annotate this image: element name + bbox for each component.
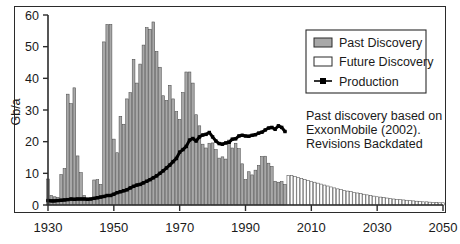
bar-past-discovery-1998	[270, 166, 273, 205]
legend-label-past-discovery: Past Discovery	[339, 36, 423, 50]
production-point-1940	[79, 197, 82, 200]
production-point-1967	[168, 163, 171, 166]
bar-past-discovery-1968	[172, 99, 175, 205]
production-point-1938	[73, 198, 76, 201]
production-point-1945	[96, 196, 99, 199]
x-tick-label-2010: 2010	[297, 220, 326, 235]
production-point-1985	[227, 141, 230, 144]
production-point-1934	[59, 199, 62, 202]
production-point-2001	[280, 126, 283, 129]
production-point-1949	[109, 194, 112, 197]
y-axis-title: Gb/a	[9, 98, 23, 125]
bar-past-discovery-1938	[73, 88, 76, 205]
bar-past-discovery-1965	[162, 96, 165, 205]
bar-future-discovery-2035	[392, 199, 395, 205]
production-point-1942	[86, 198, 89, 201]
bar-future-discovery-2021	[346, 191, 349, 205]
production-point-1969	[175, 157, 178, 160]
bar-future-discovery-2032	[382, 198, 385, 205]
production-point-1982	[217, 142, 220, 145]
bar-past-discovery-1936	[66, 94, 69, 205]
bar-future-discovery-2020	[343, 190, 346, 205]
production-point-1990	[244, 134, 247, 137]
bar-future-discovery-2004	[290, 176, 293, 205]
production-point-1973	[188, 138, 191, 141]
production-point-1996	[264, 128, 267, 131]
production-point-1983	[221, 143, 224, 146]
production-point-1941	[83, 197, 86, 200]
bar-past-discovery-1992	[251, 175, 254, 205]
production-point-1995	[260, 130, 263, 133]
production-point-1991	[247, 135, 250, 138]
bar-future-discovery-2011	[313, 182, 316, 205]
production-point-1955	[129, 186, 132, 189]
bar-past-discovery-1948	[106, 25, 109, 206]
bar-past-discovery-1979	[208, 143, 211, 205]
y-tick-label-60: 60	[25, 9, 39, 23]
bar-future-discovery-2012	[317, 183, 320, 205]
bar-past-discovery-1987	[234, 143, 237, 205]
bar-future-discovery-2010	[310, 181, 313, 205]
production-point-1946	[99, 195, 102, 198]
bar-past-discovery-1974	[191, 83, 194, 205]
production-point-1966	[165, 166, 168, 169]
production-point-1976	[198, 135, 201, 138]
bar-future-discovery-2024	[356, 193, 359, 205]
bar-past-discovery-2001	[280, 182, 283, 205]
bar-future-discovery-2037	[399, 200, 402, 205]
production-point-1999	[273, 128, 276, 131]
bar-future-discovery-2018	[336, 189, 339, 205]
bar-future-discovery-2033	[386, 198, 389, 205]
bar-past-discovery-1947	[103, 42, 106, 205]
legend-swatch-past-discovery	[314, 38, 332, 47]
bar-past-discovery-1980	[211, 143, 214, 205]
production-point-1968	[171, 160, 174, 163]
bar-future-discovery-2009	[307, 180, 310, 205]
bar-past-discovery-1994	[257, 165, 260, 205]
bar-past-discovery-1986	[231, 148, 234, 205]
bar-past-discovery-1945	[96, 180, 99, 205]
production-point-1932	[53, 199, 56, 202]
production-point-2000	[277, 124, 280, 127]
bar-past-discovery-1960	[145, 28, 148, 205]
production-point-1947	[102, 195, 105, 198]
bar-past-discovery-1985	[228, 140, 231, 205]
production-point-1962	[152, 176, 155, 179]
bar-past-discovery-1993	[254, 170, 257, 205]
bar-future-discovery-2005	[294, 177, 297, 206]
production-point-1986	[231, 137, 234, 140]
production-point-1993	[254, 133, 257, 136]
bar-future-discovery-2023	[353, 192, 356, 205]
bar-past-discovery-1967	[168, 85, 171, 205]
bar-past-discovery-1964	[159, 67, 162, 205]
production-point-1951	[115, 191, 118, 194]
y-tick-label-30: 30	[25, 104, 39, 118]
production-point-1959	[142, 181, 145, 184]
bar-future-discovery-2013	[320, 184, 323, 205]
x-tick-label-2030: 2030	[363, 220, 392, 235]
production-point-1935	[63, 198, 66, 201]
production-point-1979	[208, 131, 211, 134]
bar-past-discovery-1984	[224, 159, 227, 205]
production-point-1936	[66, 198, 69, 201]
production-point-2002	[283, 130, 286, 133]
production-point-1994	[257, 131, 260, 134]
bar-past-discovery-1963	[155, 51, 158, 205]
production-point-1974	[191, 137, 194, 140]
production-point-1971	[181, 148, 184, 151]
production-point-1933	[56, 199, 59, 202]
bar-past-discovery-1946	[99, 184, 102, 205]
bar-past-discovery-2002	[284, 184, 287, 205]
x-tick-label-1990: 1990	[231, 220, 260, 235]
chart-annotation: Past discovery based on ExxonMobile (200…	[306, 109, 442, 151]
production-point-1960	[145, 180, 148, 183]
bar-future-discovery-2007	[300, 178, 303, 205]
production-point-1953	[122, 189, 125, 192]
production-point-1975	[194, 139, 197, 142]
annotation-line-1: Past discovery based on	[306, 109, 442, 123]
production-point-1961	[148, 178, 151, 181]
production-point-1972	[185, 145, 188, 148]
bar-past-discovery-1970	[178, 120, 181, 206]
bar-future-discovery-2022	[349, 192, 352, 205]
production-point-1944	[92, 197, 95, 200]
